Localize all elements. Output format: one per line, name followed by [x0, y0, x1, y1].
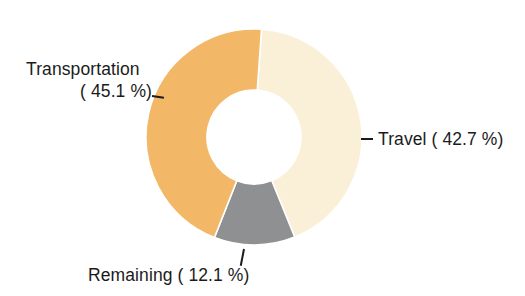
donut-slice-group: [146, 29, 362, 245]
donut-chart: Transportation ( 45.1 %) Travel ( 42.7 %…: [0, 0, 525, 296]
leader-line-travel: [361, 138, 373, 140]
slice-label-remaining: Remaining ( 12.1 %): [88, 264, 249, 286]
slice-label-transportation: Transportation ( 45.1 %): [26, 58, 152, 103]
slice-label-travel: Travel ( 42.7 %): [378, 128, 503, 150]
slice-label-transportation-name: Transportation: [26, 58, 152, 80]
slice-label-transportation-value: ( 45.1 %): [26, 80, 152, 102]
